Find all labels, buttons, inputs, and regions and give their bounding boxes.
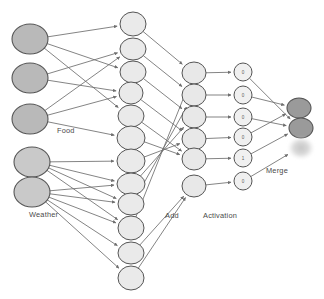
edge-activation_to_merge <box>251 114 286 133</box>
hidden-node[interactable] <box>120 61 146 83</box>
edge-input_to_hidden <box>47 26 117 37</box>
edge-add_to_activation <box>206 137 231 138</box>
hidden-node[interactable] <box>117 149 145 173</box>
hidden-node[interactable] <box>118 216 144 240</box>
label-weather: Weather <box>29 210 58 219</box>
edge-activation_to_merge <box>252 97 285 105</box>
hidden-node[interactable] <box>118 266 144 290</box>
network-canvas: 000010 <box>0 0 324 299</box>
edge-activation_to_merge <box>249 78 290 119</box>
activation-value: 0 <box>242 115 245 120</box>
label-food: Food <box>57 126 75 135</box>
edge-hidden_to_add <box>143 78 182 108</box>
hidden-node[interactable] <box>120 12 146 36</box>
hidden-node[interactable] <box>119 82 143 104</box>
label-add: Add <box>165 211 179 220</box>
activation-value: 0 <box>242 179 245 184</box>
hidden-node[interactable] <box>118 105 144 127</box>
activation-value: 1 <box>242 156 245 161</box>
add-node[interactable] <box>182 106 206 128</box>
edge-input_to_hidden <box>50 161 114 162</box>
input-food-node[interactable] <box>12 24 48 54</box>
input-food-node[interactable] <box>12 104 48 134</box>
edge-input_to_hidden <box>45 57 120 111</box>
add-node[interactable] <box>182 84 206 106</box>
edge-hidden_to_add <box>136 86 189 217</box>
edge-add_to_activation <box>206 182 231 185</box>
add-node[interactable] <box>182 128 206 150</box>
merge-node[interactable] <box>287 98 311 118</box>
edge-input_to_hidden <box>44 48 118 108</box>
edge-add_to_activation <box>206 72 231 73</box>
activation-value: 0 <box>242 70 245 75</box>
input-weather-node[interactable] <box>14 147 50 177</box>
edge-activation_to_merge <box>251 134 288 154</box>
edge-input_to_hidden <box>47 80 116 91</box>
input-weather-node[interactable] <box>14 177 50 207</box>
add-node[interactable] <box>182 148 206 170</box>
edge-hidden_to_add <box>143 55 182 86</box>
hidden-node[interactable] <box>117 173 145 195</box>
edge-hidden_to_add <box>138 198 185 269</box>
hidden-node[interactable] <box>118 242 144 264</box>
edge-input_to_hidden <box>50 185 114 191</box>
merge-node-ghost <box>288 137 315 160</box>
edge-input_to_hidden <box>47 96 116 115</box>
label-merge: Merge <box>266 166 288 175</box>
hidden-node[interactable] <box>117 126 145 150</box>
input-food-node[interactable] <box>12 63 48 93</box>
edge-hidden_to_add <box>140 196 184 245</box>
add-node[interactable] <box>182 175 206 197</box>
neural-network-diagram: 000010 Food Weather Add Activation Merge <box>0 0 324 299</box>
add-node[interactable] <box>182 62 206 84</box>
edge-input_to_hidden <box>47 200 117 246</box>
edges-group <box>44 26 290 268</box>
activation-value: 0 <box>242 93 245 98</box>
edge-activation_to_merge <box>252 119 287 126</box>
nodes-group: 000010 <box>12 12 315 290</box>
activation-value: 0 <box>242 135 245 140</box>
merge-node[interactable] <box>289 118 313 138</box>
edge-add_to_activation <box>206 158 231 159</box>
label-activation: Activation <box>203 211 237 220</box>
hidden-node[interactable] <box>118 193 144 215</box>
edge-input_to_hidden <box>48 168 116 199</box>
hidden-node[interactable] <box>120 38 146 60</box>
edge-hidden_to_add <box>143 31 182 64</box>
